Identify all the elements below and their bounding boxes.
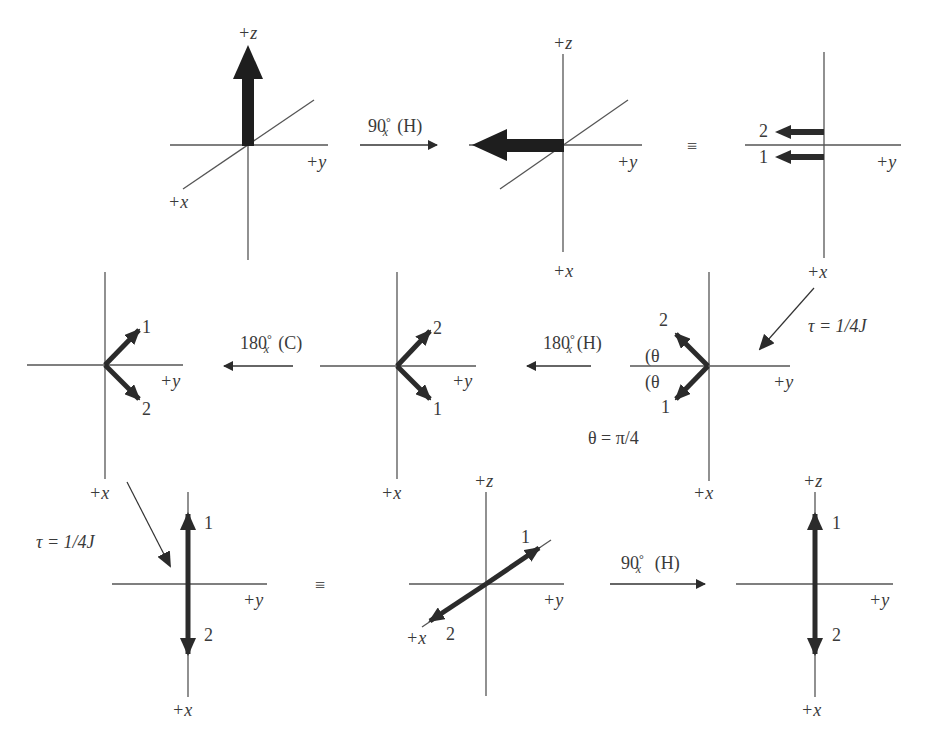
- delay1-label: τ = 1/4J: [808, 317, 867, 335]
- p1-y-label: +y: [306, 153, 326, 171]
- p7-vector-2-label: 2: [204, 626, 213, 644]
- delay1-arrow: [760, 288, 814, 349]
- panel-1-magnetization-vector: [233, 45, 263, 146]
- p2-z-label: +z: [553, 34, 572, 52]
- p9-y-label: +y: [869, 591, 889, 609]
- p8-z-label: +z: [474, 472, 493, 490]
- p5-vector-2-label: 2: [433, 319, 442, 337]
- p7-x-label: +x: [172, 701, 192, 719]
- p7-vector-1-label: 1: [204, 514, 213, 532]
- p1-x-label: +x: [168, 193, 188, 211]
- p3-y-label: +y: [876, 153, 896, 171]
- p2-y-label: +y: [617, 153, 637, 171]
- p3-vector-2-label: 2: [759, 122, 768, 140]
- p5-y-label: +y: [452, 372, 472, 390]
- p6-x-label: +x: [89, 484, 109, 502]
- panel-5-vectors: [397, 331, 430, 399]
- p8-y-label: +y: [543, 591, 563, 609]
- p5-vector-1-label: 1: [433, 400, 442, 418]
- p9-vector-1-label: 1: [832, 514, 841, 532]
- panel-8-axes: [409, 492, 564, 696]
- panel-2-magnetization-vector: [472, 129, 564, 161]
- delay2-label: τ = 1/4J: [36, 533, 95, 551]
- p2-x-label: +x: [553, 262, 573, 280]
- p4-y-label: +y: [773, 373, 793, 391]
- p8-x-label: +x: [406, 629, 426, 647]
- p4-vector-2-label: 2: [659, 311, 668, 329]
- p9-x-label: +x: [801, 701, 821, 719]
- p9-vector-2-label: 2: [832, 626, 841, 644]
- p3-x-label: +x: [807, 263, 827, 281]
- op4-label: 90°x (H): [621, 553, 680, 575]
- op2-label: 180°x (H): [543, 333, 602, 355]
- p3-vector-1-label: 1: [759, 148, 768, 166]
- op1-label: 90°x (H): [368, 116, 422, 138]
- p6-y-label: +y: [160, 372, 180, 390]
- equivalence-symbol-2: ≡: [315, 576, 325, 594]
- equivalence-symbol-1: ≡: [687, 137, 697, 155]
- p8-vector-2-label: 2: [446, 625, 455, 643]
- p6-vector-2-label: 2: [142, 400, 151, 418]
- delay2-arrow: [127, 482, 170, 566]
- p9-z-label: +z: [803, 472, 822, 490]
- pulse-sequence-vector-diagram: +z +y +x 90°x (H) +z +y +x ≡ 2 1 +y +x τ…: [0, 0, 926, 746]
- p7-y-label: +y: [243, 591, 263, 609]
- p4-vector-1-label: 1: [661, 398, 670, 416]
- p5-x-label: +x: [381, 484, 401, 502]
- theta-definition: θ = π/4: [588, 429, 639, 447]
- p4-theta-lower: (θ: [645, 373, 660, 391]
- p1-z-label: +z: [238, 24, 257, 42]
- p8-vector-1-label: 1: [521, 528, 530, 546]
- p6-vector-1-label: 1: [142, 318, 151, 336]
- p4-x-label: +x: [693, 484, 713, 502]
- p4-theta-upper: (θ: [645, 347, 660, 365]
- op3-label: 180°x (C): [240, 333, 302, 355]
